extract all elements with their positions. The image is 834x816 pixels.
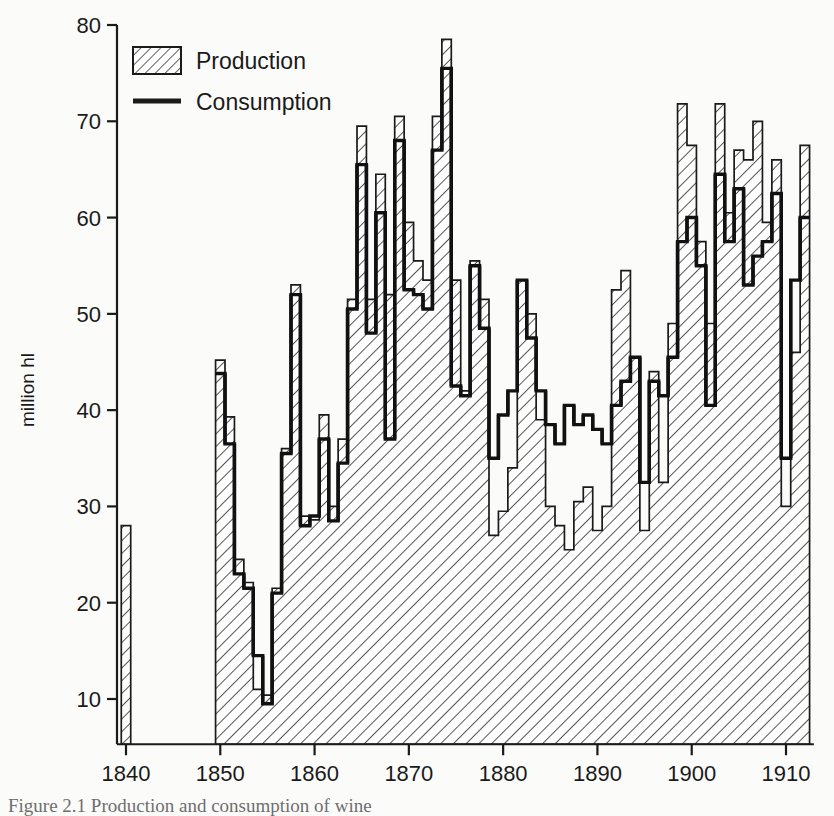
x-tick-label: 1870 xyxy=(384,761,433,786)
y-tick-label: 50 xyxy=(77,302,101,327)
y-tick-label: 80 xyxy=(77,13,101,38)
legend-label-production: Production xyxy=(196,48,306,74)
x-tick-label: 1840 xyxy=(102,761,151,786)
y-tick-label: 60 xyxy=(77,206,101,231)
y-tick-label: 70 xyxy=(77,109,101,134)
y-tick-label: 30 xyxy=(77,494,101,519)
y-tick-label: 40 xyxy=(77,398,101,423)
y-tick-label: 10 xyxy=(77,687,101,712)
figure-caption: Figure 2.1 Production and consumption of… xyxy=(8,795,372,816)
y-axis-label: million hl xyxy=(17,353,38,427)
legend-label-consumption: Consumption xyxy=(196,89,332,115)
legend-swatch-production xyxy=(133,47,181,74)
x-tick-label: 1910 xyxy=(762,761,811,786)
x-tick-label: 1900 xyxy=(667,761,716,786)
y-tick-label: 20 xyxy=(77,591,101,616)
x-tick-label: 1890 xyxy=(573,761,622,786)
x-tick-label: 1860 xyxy=(290,761,339,786)
x-tick-label: 1880 xyxy=(479,761,528,786)
chart-canvas: 1020304050607080184018501860187018801890… xyxy=(0,0,834,816)
figure-wine-production-consumption: 1020304050607080184018501860187018801890… xyxy=(0,0,834,816)
x-tick-label: 1850 xyxy=(196,761,245,786)
production-area xyxy=(121,526,130,745)
